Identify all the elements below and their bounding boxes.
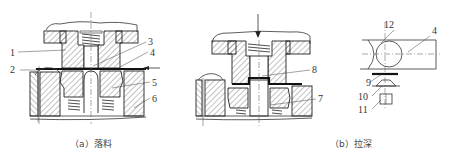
label-7: 7 <box>318 93 323 104</box>
part-10 <box>376 80 396 86</box>
label-4-detail: 4 <box>432 25 437 36</box>
label-5: 5 <box>152 77 157 88</box>
blank-holder-left-a <box>60 71 83 97</box>
caption-a: （a）落料 <box>70 138 112 149</box>
caption-b: （b）拉深 <box>330 138 372 149</box>
label-4: 4 <box>150 47 155 58</box>
drawing-die-view: 8 7 （b）拉深 <box>196 14 372 149</box>
blanking-die-view: 1 2 3 4 5 6 （a）落料 <box>10 12 160 149</box>
label-11: 11 <box>358 104 368 115</box>
die-block-a <box>124 71 144 116</box>
label-6: 6 <box>152 93 157 104</box>
ram-outline-a <box>46 22 137 32</box>
lower-spring-right-a <box>102 100 114 110</box>
blank-holder-right-a <box>100 71 123 97</box>
label-10: 10 <box>358 91 368 102</box>
press-arrow-icon <box>255 31 261 38</box>
label-2: 2 <box>10 64 15 75</box>
stamping-die-diagram: 1 2 3 4 5 6 （a）落料 <box>0 0 451 159</box>
punch-right-a <box>98 31 122 68</box>
detail-view: 12 4 9 10 11 <box>358 19 440 115</box>
upper-die-left-b <box>228 41 250 84</box>
label-8: 8 <box>312 64 317 75</box>
punch-left-a <box>60 31 84 68</box>
blank-holder-left-b <box>228 88 248 108</box>
blank-holder-right-b <box>270 88 290 108</box>
label-12: 12 <box>384 19 394 30</box>
label-9: 9 <box>366 77 371 88</box>
lower-spring-left-a <box>68 100 80 110</box>
half-circle <box>368 40 374 69</box>
label-3: 3 <box>148 36 153 47</box>
label-1: 1 <box>10 47 15 58</box>
